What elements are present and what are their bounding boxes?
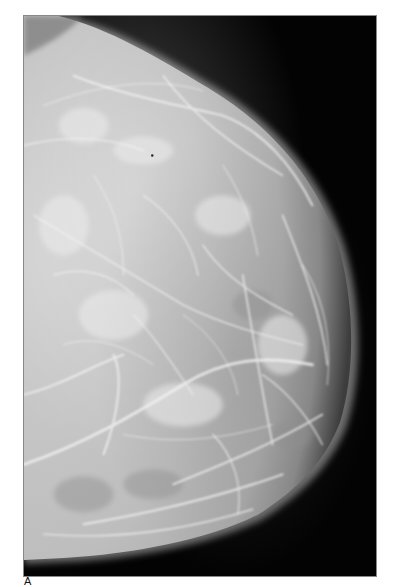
breast-tissue: [24, 16, 376, 576]
tissue-rendering: [24, 16, 376, 576]
panel-label: A: [24, 575, 31, 587]
mammogram-image: [23, 15, 377, 577]
